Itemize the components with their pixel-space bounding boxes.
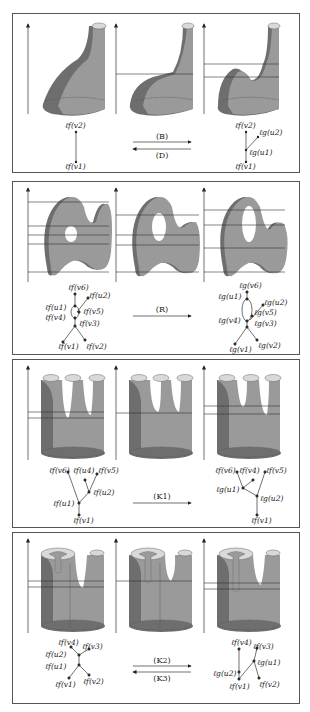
node-label: ℓf(u2)	[45, 650, 66, 659]
node-label: ℓf(u4)	[73, 466, 94, 475]
node-label: ℓg(u1)	[216, 485, 239, 494]
graph-right-labels: ℓf(v6) ℓf(v4) ℓf(v5) ℓg(u1) ℓg(u2) ℓf(v1…	[215, 466, 287, 525]
move-label-k2: (K2)	[153, 656, 170, 665]
surface-right	[204, 548, 281, 632]
node-label: ℓf(v2)	[259, 680, 280, 689]
graph-left-labels: ℓf(v6) ℓf(u4) ℓf(v5) ℓf(u2) ℓf(u1) ℓf(v1…	[49, 466, 119, 525]
node-label: ℓf(v3)	[79, 319, 100, 328]
panel-rotation: ℓf(v6) ℓf(u2) ℓf(u1) ℓf(v5) ℓf(v4) ℓf(v3…	[12, 181, 300, 355]
node-label: ℓf(v1)	[235, 162, 256, 171]
node-label: ℓf(u1)	[45, 662, 66, 671]
node-label: ℓf(v1)	[65, 162, 86, 171]
move-label-k1: (K1)	[153, 492, 170, 501]
surface-left	[28, 197, 112, 276]
panel-4-figure: ℓf(v4) ℓf(v3) ℓf(u2) ℓf(u1) ℓf(v1) ℓf(v2…	[13, 533, 301, 705]
move-arrows: (K2) (K3)	[133, 656, 191, 683]
node-label: ℓf(v1)	[229, 682, 250, 691]
surface-middle	[116, 197, 200, 276]
node-label: ℓf(v2)	[83, 677, 104, 686]
panel-1-figure: ℓf(v2) ℓf(v1) (B) (D) ℓf(v2) ℓg(u2) ℓg(u…	[13, 14, 301, 174]
surface-right	[204, 197, 288, 276]
node-label: ℓf(u2)	[89, 291, 110, 300]
graph-right: ℓf(v2) ℓg(u2) ℓg(u1) ℓf(v1)	[235, 121, 282, 171]
graph-right-labels: ℓg(v6) ℓg(u1) ℓg(u2) ℓg(v5) ℓg(v4) ℓg(v3…	[218, 281, 287, 354]
surface-left	[28, 375, 105, 460]
node-label: ℓf(u1)	[53, 499, 74, 508]
panel-k1: ℓf(v6) ℓf(u4) ℓf(v5) ℓf(u2) ℓf(u1) ℓf(v1…	[12, 359, 300, 528]
panel-k2-k3: ℓf(v4) ℓf(v3) ℓf(u2) ℓf(u1) ℓf(v1) ℓf(v2…	[12, 532, 300, 704]
node-label: ℓf(v2)	[65, 121, 86, 130]
surface-middle	[116, 23, 194, 116]
node-label: ℓg(u2)	[260, 494, 283, 503]
graph-left-labels: ℓf(v4) ℓf(v3) ℓf(u2) ℓf(u1) ℓf(v1) ℓf(v2…	[45, 638, 104, 689]
node-label: ℓf(v1)	[73, 516, 94, 525]
node-label: ℓg(v1)	[229, 345, 252, 354]
node-label: ℓg(u2)	[259, 128, 282, 137]
surface-middle	[116, 375, 193, 460]
node-label: ℓg(v4)	[218, 316, 241, 325]
node-label: ℓf(v4)	[58, 638, 79, 647]
node-label: ℓf(v1)	[55, 680, 76, 689]
node-label: ℓg(v6)	[239, 281, 262, 290]
node-label: ℓf(v2)	[86, 342, 107, 351]
graph-left: ℓf(v2) ℓf(v1)	[65, 121, 86, 171]
node-label: ℓf(u2)	[93, 488, 114, 497]
node-label: ℓf(v3)	[253, 642, 274, 651]
move-arrows: (K1)	[133, 492, 191, 503]
move-label-k3: (K3)	[153, 674, 170, 683]
node-label: ℓg(u1)	[257, 658, 280, 667]
move-arrows: (B) (D)	[133, 132, 191, 160]
node-label: ℓf(v6)	[49, 466, 70, 475]
node-label: ℓf(v5)	[83, 307, 104, 316]
node-label: ℓf(v5)	[266, 466, 287, 475]
graph-left	[62, 293, 89, 343]
move-label-d: (D)	[156, 151, 169, 160]
node-label: ℓg(u2)	[264, 298, 287, 307]
surface-right	[204, 375, 281, 460]
node-label: ℓg(v3)	[254, 319, 277, 328]
node-label: ℓf(v3)	[82, 642, 103, 651]
node-label: ℓf(u1)	[45, 303, 66, 312]
surface-right	[204, 23, 280, 116]
node-label: ℓg(u1)	[249, 148, 272, 157]
node-label: ℓf(v1)	[58, 342, 79, 351]
panel-3-figure: ℓf(v6) ℓf(u4) ℓf(v5) ℓf(u2) ℓf(u1) ℓf(v1…	[13, 360, 301, 529]
node-label: ℓg(u1)	[218, 292, 241, 301]
node-label: ℓf(v6)	[215, 466, 236, 475]
move-arrows: (R)	[133, 305, 191, 316]
node-label: ℓf(v4)	[239, 466, 260, 475]
move-label-b: (B)	[156, 132, 168, 141]
node-label: ℓf(v4)	[231, 638, 252, 647]
node-label: ℓf(v1)	[251, 516, 272, 525]
node-label: ℓf(v5)	[98, 466, 119, 475]
surface-left	[43, 23, 106, 116]
surface-middle	[116, 548, 193, 632]
surface-left	[28, 548, 105, 632]
graph-left-labels: ℓf(v6) ℓf(u2) ℓf(u1) ℓf(v5) ℓf(v4) ℓf(v3…	[45, 283, 110, 351]
move-label-r: (R)	[156, 305, 168, 314]
panel-birth-death: ℓf(v2) ℓf(v1) (B) (D) ℓf(v2) ℓg(u2) ℓg(u…	[12, 13, 300, 173]
node-label: ℓf(v2)	[235, 121, 256, 130]
node-label: ℓf(v6)	[68, 283, 89, 292]
node-label: ℓg(v2)	[258, 341, 281, 350]
graph-right-labels: ℓf(v4) ℓf(v3) ℓg(u1) ℓg(u2) ℓf(v1) ℓf(v2…	[213, 638, 280, 691]
node-label: ℓg(v5)	[254, 308, 277, 317]
panel-2-figure: ℓf(v6) ℓf(u2) ℓf(u1) ℓf(v5) ℓf(v4) ℓf(v3…	[13, 182, 301, 356]
node-label: ℓg(u2)	[213, 669, 236, 678]
node-label: ℓf(v4)	[45, 313, 66, 322]
